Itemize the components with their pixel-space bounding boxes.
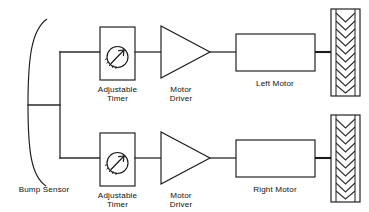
block-diagram-canvas: Adjustable Timer Motor Driver Left Motor… <box>0 0 369 212</box>
label-adjustable-timer-top-line1: Adjustable <box>98 85 138 94</box>
signal-bus <box>60 52 100 158</box>
motor-driver-top[interactable] <box>161 26 236 78</box>
motor-driver-bottom[interactable] <box>161 132 236 184</box>
right-wheel <box>331 115 360 202</box>
label-motor-driver-top-line1: Motor <box>170 85 192 94</box>
label-motor-driver-bottom-line2: Driver <box>170 200 193 209</box>
label-adjustable-timer-bottom-line2: Timer <box>107 200 128 209</box>
label-right-motor: Right Motor <box>253 185 297 194</box>
label-adjustable-timer-bottom-line1: Adjustable <box>98 191 138 200</box>
label-adjustable-timer-top-line2: Timer <box>107 94 128 103</box>
label-bump-sensor: Bump Sensor <box>19 185 70 194</box>
schematic-drawing: Adjustable Timer Motor Driver Left Motor… <box>0 0 369 212</box>
right-motor-block[interactable] <box>236 140 315 177</box>
bump-sensor-symbol <box>28 19 60 186</box>
left-motor-block[interactable] <box>236 34 315 71</box>
label-motor-driver-bottom-line1: Motor <box>170 191 192 200</box>
adjustable-timer-bottom[interactable] <box>100 133 135 186</box>
left-wheel <box>331 9 360 96</box>
label-motor-driver-top-line2: Driver <box>170 94 193 103</box>
label-left-motor: Left Motor <box>256 79 294 88</box>
adjustable-timer-top[interactable] <box>100 27 135 80</box>
